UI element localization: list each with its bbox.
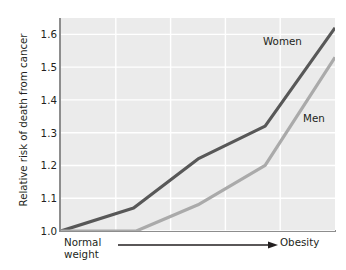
horizontal-gridlines (61, 34, 335, 231)
y-tick-label: 1.0 (26, 225, 57, 237)
right-arrow-icon (118, 241, 278, 249)
data-series-lines (61, 28, 335, 231)
x-axis-start-label-line1: Normal (64, 236, 101, 248)
y-tick-label: 1.4 (26, 94, 57, 106)
y-tick-label: 1.5 (26, 61, 57, 73)
cancer-risk-line-chart: Relative risk of death from cancer 1.01.… (0, 0, 346, 270)
y-tick-label: 1.2 (26, 159, 57, 171)
x-axis-start-label-line2: weight (64, 248, 99, 260)
plot-canvas (61, 18, 335, 231)
y-tick-label: 1.3 (26, 127, 57, 139)
x-axis-annotation: Normal weight Obesity (61, 236, 346, 268)
y-axis-tick-labels: 1.01.11.21.31.41.51.6 (26, 0, 57, 270)
series-line-women (61, 28, 335, 231)
x-axis-start-label: Normal weight (64, 236, 101, 261)
plot-area (61, 18, 335, 231)
x-axis-end-label: Obesity (280, 236, 319, 248)
series-label-women: Women (263, 35, 302, 47)
vertical-gridlines (116, 18, 280, 231)
y-tick-label: 1.6 (26, 28, 57, 40)
y-tick-label: 1.1 (26, 192, 57, 204)
series-label-men: Men (303, 112, 325, 124)
